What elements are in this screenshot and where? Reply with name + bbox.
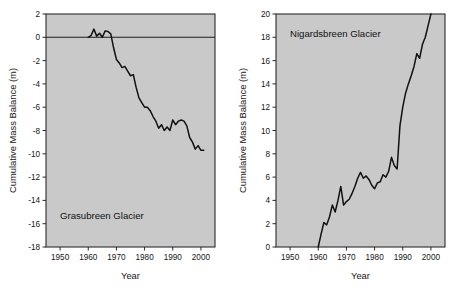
y-tick-label: 0 <box>265 243 270 252</box>
x-tick-label: 1960 <box>79 253 98 262</box>
y-tick-label: 10 <box>261 127 271 136</box>
y-tick-label: 2 <box>35 10 40 19</box>
x-tick-label: 1960 <box>309 253 328 262</box>
y-tick-label: -10 <box>28 150 40 159</box>
x-tick-label: 1980 <box>135 253 154 262</box>
y-tick-label: 2 <box>265 220 270 229</box>
y-tick-label: 4 <box>265 196 270 205</box>
y-tick-label: 8 <box>265 150 270 159</box>
figure-container: 20-2-4-6-8-10-12-14-16-18195019601970198… <box>0 0 459 296</box>
x-axis-title: Year <box>351 270 370 281</box>
x-tick-label: 1950 <box>281 253 300 262</box>
y-tick-label: 6 <box>265 173 270 182</box>
y-tick-label: 0 <box>35 33 40 42</box>
nigardsbreen-plot-svg: 2018161412108642019501960197019801990200… <box>230 0 459 296</box>
x-tick-label: 1990 <box>394 253 413 262</box>
y-tick-label: -6 <box>33 103 41 112</box>
x-tick-label: 2000 <box>192 253 211 262</box>
y-tick-label: 18 <box>261 33 271 42</box>
y-axis-title: Cumulative Mass Balance (m) <box>237 68 248 193</box>
y-tick-label: -2 <box>33 57 41 66</box>
y-tick-label: -14 <box>28 196 40 205</box>
y-tick-label: 14 <box>261 80 271 89</box>
x-axis-title: Year <box>121 270 140 281</box>
y-tick-label: 12 <box>261 103 271 112</box>
chart-panel-nigardsbreen: 2018161412108642019501960197019801990200… <box>230 0 459 296</box>
x-tick-label: 1990 <box>164 253 183 262</box>
grasubreen-plot-svg: 20-2-4-6-8-10-12-14-16-18195019601970198… <box>0 0 229 296</box>
y-tick-label: -18 <box>28 243 40 252</box>
x-tick-label: 1970 <box>107 253 126 262</box>
chart-panel-grasubreen: 20-2-4-6-8-10-12-14-16-18195019601970198… <box>0 0 229 296</box>
x-tick-label: 1950 <box>51 253 70 262</box>
y-tick-label: -8 <box>33 127 41 136</box>
y-axis-title: Cumulative Mass Balance (m) <box>7 68 18 193</box>
series-title-label: Nigardsbreen Glacier <box>290 28 381 39</box>
y-tick-label: -12 <box>28 173 40 182</box>
y-tick-label: 16 <box>261 57 271 66</box>
x-tick-label: 1970 <box>337 253 356 262</box>
y-tick-label: 20 <box>261 10 271 19</box>
y-tick-label: -4 <box>33 80 41 89</box>
x-tick-label: 2000 <box>422 253 441 262</box>
series-title-label: Grasubreen Glacier <box>60 210 145 221</box>
plot-area-background-1 <box>276 14 445 247</box>
y-tick-label: -16 <box>28 220 40 229</box>
x-tick-label: 1980 <box>365 253 384 262</box>
